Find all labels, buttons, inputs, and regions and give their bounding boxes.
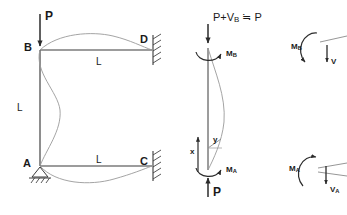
joint-A-moment-arc	[298, 157, 316, 186]
fbd-moment-MB-text: M	[226, 49, 233, 58]
joint-B-moment-arc	[301, 33, 317, 62]
node-label-D: D	[140, 34, 148, 45]
axis-label-y: y	[213, 136, 217, 144]
joint-B-free-body-group	[301, 33, 347, 62]
joint-A-member-stub-lower	[318, 172, 347, 176]
load-label-P: P	[45, 10, 53, 22]
joint-A-free-body-group	[298, 157, 347, 186]
fbd-moment-MB-subscript: B	[233, 52, 237, 58]
fbd-moment-label-MB: MB	[226, 50, 237, 59]
joint-A-moment-text: M	[289, 164, 296, 173]
joint-B-member-stub	[320, 36, 347, 42]
node-label-B: B	[24, 42, 32, 53]
joint-B-shear-text: V	[331, 57, 336, 66]
deflection-curve-column-AB	[39, 50, 60, 166]
deflection-curve-beam-BD	[40, 34, 152, 50]
node-label-A: A	[23, 158, 31, 169]
approx-equal-icon: ≒	[242, 11, 251, 23]
column-free-body-group	[196, 24, 224, 197]
fbd-moment-MA-subscript: A	[233, 168, 237, 174]
fbd-bottom-force-label: P	[213, 186, 221, 198]
length-label-column: L	[17, 103, 23, 113]
length-label-bottom: L	[96, 155, 102, 165]
joint-B-moment-subscript: B	[298, 45, 302, 51]
support-pinned-A	[29, 167, 51, 183]
fbd-top-force-equiv: P	[254, 11, 261, 23]
structural-diagram-svg	[0, 0, 347, 215]
joint-A-member-stub-upper	[318, 163, 347, 168]
axis-label-x: x	[190, 148, 194, 156]
fbd-top-force-subscript: B	[234, 15, 239, 24]
support-fixed-C	[153, 150, 161, 181]
joint-A-shear-label: VA	[330, 186, 340, 195]
fbd-column-deflection	[208, 48, 224, 170]
joint-B-moment-text: M	[291, 42, 298, 51]
joint-A-shear-subscript: A	[335, 188, 339, 194]
joint-A-moment-label: MA	[289, 165, 300, 174]
fbd-moment-MA-text: M	[226, 165, 233, 174]
length-label-top: L	[96, 57, 102, 67]
joint-B-moment-label: MB	[291, 43, 302, 52]
support-fixed-D	[153, 34, 161, 65]
node-label-C: C	[140, 156, 148, 167]
joint-B-shear-label: V	[331, 58, 336, 67]
fbd-top-force-label: P+VB≒P	[213, 12, 262, 24]
fbd-moment-label-MA: MA	[226, 166, 237, 175]
diagram-canvas: B D A C L L L P P+VB≒P MB MA P x y MB V …	[0, 0, 347, 215]
deflection-curve-beam-AC	[40, 166, 152, 183]
fbd-top-force-text: P+V	[213, 11, 234, 23]
joint-A-moment-subscript: A	[296, 167, 300, 173]
